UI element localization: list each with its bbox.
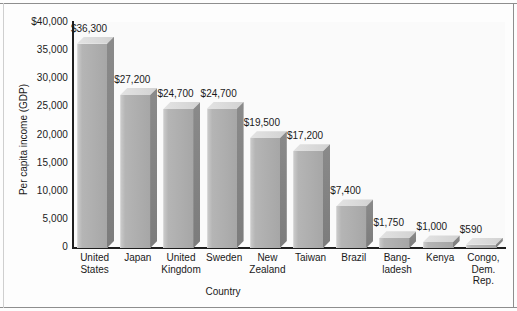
- y-axis-tick-label: 20,000: [2, 130, 68, 140]
- bar-group: [207, 22, 244, 248]
- y-axis-tick-label: 5,000: [2, 214, 68, 224]
- x-axis-category-label-line: Zealand: [242, 264, 293, 276]
- bar-value-label: $27,200: [114, 75, 150, 85]
- bar-side-face: [280, 131, 287, 248]
- bar-3d: [207, 102, 244, 248]
- bar-value-label: $1,000: [417, 222, 448, 232]
- bar-value-label: $17,200: [287, 131, 323, 141]
- x-axis-title: Country: [73, 286, 373, 297]
- y-axis-tick-labels: $40,00035,00030,00025,00020,00015,00010,…: [0, 0, 68, 311]
- bar-3d: [466, 238, 503, 248]
- bar-value-label: $24,700: [201, 89, 237, 99]
- y-axis-tick-label: 10,000: [2, 186, 68, 196]
- bar-side-face: [323, 144, 330, 248]
- x-axis-category-label-line: States: [69, 264, 120, 276]
- bar-3d: [423, 235, 460, 248]
- bar-value-label: $7,400: [330, 186, 361, 196]
- bar-front-face: [77, 44, 108, 248]
- bar-group: [423, 22, 460, 248]
- y-axis-tick-label: 15,000: [2, 158, 68, 168]
- bar-front-face: [207, 109, 238, 248]
- bar-3d: [379, 231, 416, 248]
- bar-value-label: $24,700: [157, 89, 193, 99]
- bar-group: [336, 22, 373, 248]
- bar-3d: [163, 102, 200, 248]
- bar-front-face: [293, 151, 324, 248]
- y-axis-title: Per capita income (GDP): [18, 50, 29, 230]
- x-axis-category-label-line: Congo,: [458, 252, 509, 264]
- bar-value-label: $36,300: [71, 24, 107, 34]
- y-axis-tick-label: 0: [2, 242, 68, 252]
- bar-group: [120, 22, 157, 248]
- bar-group: [77, 22, 114, 248]
- bar-front-face: [120, 95, 151, 248]
- bar-3d: [293, 144, 330, 248]
- bar-value-label: $1,750: [373, 218, 404, 228]
- bar-front-face: [466, 245, 497, 248]
- figure-border-bottom: [0, 307, 517, 308]
- bar-side-face: [150, 88, 157, 248]
- bar-group: [250, 22, 287, 248]
- figure-container: $40,00035,00030,00025,00020,00015,00010,…: [0, 0, 517, 311]
- figure-border-top: [0, 3, 517, 4]
- bar-side-face: [193, 102, 200, 248]
- bar-3d: [77, 37, 114, 248]
- bar-front-face: [163, 109, 194, 248]
- bar-3d: [336, 199, 373, 248]
- bar-side-face: [107, 37, 114, 248]
- bar-side-face: [237, 102, 244, 248]
- y-axis-tick-label: 35,000: [2, 45, 68, 55]
- bar-value-label: $19,500: [244, 118, 280, 128]
- bar-group: [163, 22, 200, 248]
- y-axis-tick-label: $40,000: [2, 17, 68, 27]
- bar-group: [466, 22, 503, 248]
- x-axis-category-label-line: ladesh: [371, 264, 422, 276]
- x-axis-category-label: Congo,Dem.Rep.: [458, 252, 509, 287]
- bar-front-face: [379, 238, 410, 248]
- bar-value-label: $590: [460, 225, 482, 235]
- bar-group: [379, 22, 416, 248]
- x-axis-category-label-line: Rep.: [458, 275, 509, 287]
- x-axis-category-label-line: Dem.: [458, 264, 509, 276]
- bar-3d: [250, 131, 287, 248]
- x-axis-category-label-line: Kingdom: [155, 264, 206, 276]
- y-axis-tick-label: 30,000: [2, 73, 68, 83]
- bar-front-face: [250, 138, 281, 248]
- figure-border-right: [513, 3, 514, 308]
- bar-series: $36,300$27,200$24,700$24,700$19,500$17,2…: [73, 22, 505, 248]
- bar-front-face: [336, 206, 367, 248]
- bar-side-face: [366, 199, 373, 248]
- bar-front-face: [423, 242, 454, 248]
- y-axis-tick-label: 25,000: [2, 101, 68, 111]
- bar-3d: [120, 88, 157, 248]
